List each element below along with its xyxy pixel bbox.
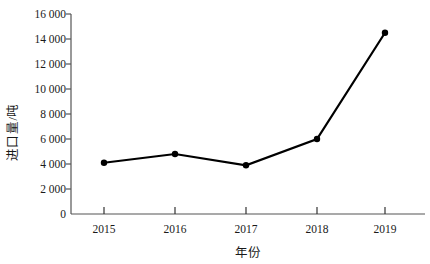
y-tick-marks [66, 14, 71, 189]
data-series-line [104, 33, 385, 166]
data-point [243, 162, 249, 168]
data-point [101, 160, 107, 166]
line-chart: 进口量/吨 16 000 14 000 12 000 10 000 8 000 … [0, 0, 430, 264]
x-tick-marks [104, 207, 385, 214]
data-point [172, 151, 178, 157]
plot-area [0, 0, 430, 264]
data-point [314, 136, 320, 142]
data-point [382, 30, 388, 36]
data-point-markers [101, 30, 388, 169]
